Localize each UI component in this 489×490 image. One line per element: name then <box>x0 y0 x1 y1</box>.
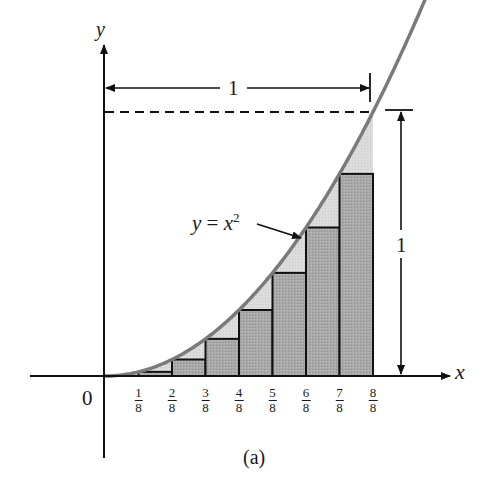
origin-label: 0 <box>82 386 93 411</box>
x-tick-label: 28 <box>168 387 177 414</box>
curve-label-lhs: y <box>192 211 201 235</box>
y-axis-label: y <box>96 18 105 41</box>
x-tick-label: 18 <box>134 387 143 414</box>
tick-numerator: 2 <box>168 387 177 401</box>
riemann-rectangle-5 <box>239 310 273 376</box>
tick-denominator: 8 <box>370 401 377 414</box>
tick-denominator: 8 <box>303 401 310 414</box>
x-tick-label: 38 <box>201 387 210 414</box>
tick-denominator: 8 <box>269 401 276 414</box>
height-dimension-label: 1 <box>396 233 407 258</box>
riemann-sum-diagram <box>0 0 489 490</box>
tick-numerator: 4 <box>235 387 244 401</box>
tick-numerator: 5 <box>268 387 277 401</box>
x-tick-label: 68 <box>302 387 311 414</box>
riemann-rectangle-8 <box>340 174 374 376</box>
tick-denominator: 8 <box>336 401 343 414</box>
tick-denominator: 8 <box>169 401 176 414</box>
tick-denominator: 8 <box>202 401 209 414</box>
curve-label-exponent: 2 <box>233 210 240 225</box>
x-axis-label: x <box>455 359 465 385</box>
riemann-rectangle-7 <box>306 228 340 377</box>
riemann-rectangle-3 <box>172 360 206 377</box>
tick-numerator: 8 <box>369 387 378 401</box>
x-tick-label: 58 <box>268 387 277 414</box>
tick-numerator: 3 <box>201 387 210 401</box>
curve-label-eq: = <box>207 211 219 235</box>
x-tick-label: 88 <box>369 387 378 414</box>
tick-numerator: 6 <box>302 387 311 401</box>
width-dimension-label: 1 <box>228 76 239 101</box>
riemann-rectangle-4 <box>206 339 240 376</box>
tick-numerator: 7 <box>335 387 344 401</box>
curve-label-arrow <box>257 224 301 238</box>
curve-label: y = x2 <box>192 210 240 236</box>
curve-label-base: x <box>224 211 233 235</box>
tick-numerator: 1 <box>134 387 143 401</box>
x-tick-label: 48 <box>235 387 244 414</box>
x-tick-label: 78 <box>335 387 344 414</box>
figure-caption: (a) <box>243 446 265 469</box>
tick-denominator: 8 <box>135 401 142 414</box>
tick-denominator: 8 <box>236 401 243 414</box>
riemann-rectangle-6 <box>273 273 307 376</box>
